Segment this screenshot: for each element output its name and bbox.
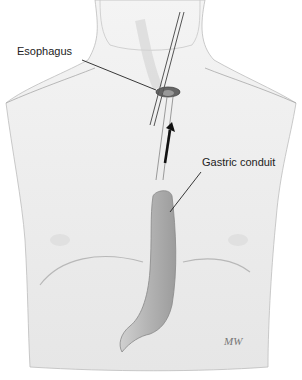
medical-illustration: MW Esophagus Gastric conduit [0, 0, 302, 380]
artist-signature: MW [223, 335, 243, 347]
label-gastric-conduit: Gastric conduit [202, 156, 275, 168]
label-esophagus: Esophagus [17, 45, 72, 57]
torso-drawing: MW [0, 0, 302, 380]
